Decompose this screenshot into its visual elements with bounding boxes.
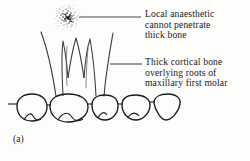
occlusal-tooth-row bbox=[8, 94, 180, 122]
tooth-crown-2 bbox=[50, 94, 88, 122]
tooth-crown-4 bbox=[122, 95, 150, 120]
callout-local-anaesthetic: Local anaesthetic cannot penetrate thick… bbox=[145, 9, 214, 41]
molar-root-distobuccal bbox=[68, 38, 84, 78]
callout-local-anaesthetic-line-3: thick bone bbox=[145, 30, 214, 41]
callout-local-anaesthetic-line-1: Local anaesthetic bbox=[145, 9, 214, 20]
callout-thick-cortical-bone-line-1: Thick cortical bone bbox=[145, 57, 228, 68]
tooth-crown-3-groove bbox=[98, 113, 107, 118]
tooth-crown-3 bbox=[92, 95, 118, 120]
tooth-crown-5 bbox=[154, 94, 180, 120]
tooth-crown-4-groove bbox=[128, 113, 139, 117]
callout-thick-cortical-bone: Thick cortical bone overlying roots of m… bbox=[145, 57, 228, 89]
callout-thick-cortical-bone-line-3: maxillary first molar bbox=[145, 78, 228, 89]
figure-label: (a) bbox=[13, 133, 24, 144]
tooth-crown-1 bbox=[17, 94, 47, 121]
stippled-anaesthetic-cloud bbox=[54, 5, 83, 31]
figure-panel: Local anaesthetic cannot penetrate thick… bbox=[0, 0, 250, 161]
cortical-bone-left-outline bbox=[41, 32, 56, 96]
